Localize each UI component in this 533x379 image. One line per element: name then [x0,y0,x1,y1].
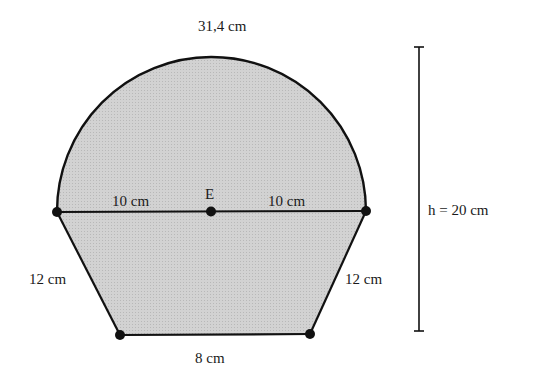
right-diameter-end-point [361,206,371,216]
right-radius-label: 10 cm [268,193,305,209]
composite-shape-diagram: 31,4 cm E 10 cm 10 cm 12 cm 12 cm 8 cm h… [0,0,533,379]
left-leg-label: 12 cm [29,271,66,287]
left-radius-label: 10 cm [112,193,149,209]
bottom-base-line [120,334,310,335]
center-E-point [206,207,216,217]
arc-length-label: 31,4 cm [198,18,247,34]
left-diameter-end-point [52,207,62,217]
bottom-left-vertex-point [115,330,125,340]
bottom-base-label: 8 cm [195,350,225,366]
height-label: h = 20 cm [428,202,489,218]
right-leg-label: 12 cm [345,271,382,287]
bottom-right-vertex-point [305,329,315,339]
center-label: E [205,186,214,202]
